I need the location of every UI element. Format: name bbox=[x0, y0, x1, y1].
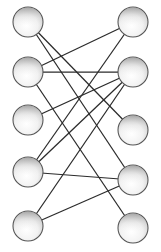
graph-node-R3[interactable] bbox=[118, 115, 148, 145]
graph-edge-L4-R4 bbox=[28, 172, 133, 180]
node-shading-L4 bbox=[14, 158, 43, 187]
node-shading-R3 bbox=[119, 116, 148, 145]
node-shading-L5 bbox=[14, 212, 43, 241]
node-shading-R1 bbox=[119, 8, 148, 37]
graph-edge-L1-R3 bbox=[28, 22, 133, 130]
node-shading-L1 bbox=[14, 8, 43, 37]
graph-node-L4[interactable] bbox=[13, 157, 43, 187]
node-shading-L3 bbox=[14, 106, 43, 135]
graph-node-L1[interactable] bbox=[13, 7, 43, 37]
node-shading-R5 bbox=[119, 214, 148, 243]
graph-edge-L2-R1 bbox=[28, 22, 133, 72]
node-shading-R4 bbox=[119, 166, 148, 195]
graph-node-R1[interactable] bbox=[118, 7, 148, 37]
graph-node-R4[interactable] bbox=[118, 165, 148, 195]
graph-node-L3[interactable] bbox=[13, 105, 43, 135]
bipartite-graph-diagram bbox=[0, 0, 161, 252]
graph-node-L2[interactable] bbox=[13, 57, 43, 87]
node-shading-L2 bbox=[14, 58, 43, 87]
nodes-layer bbox=[13, 7, 148, 243]
graph-node-R2[interactable] bbox=[118, 57, 148, 87]
graph-node-R5[interactable] bbox=[118, 213, 148, 243]
node-shading-R2 bbox=[119, 58, 148, 87]
graph-canvas bbox=[0, 0, 161, 252]
edges-layer bbox=[28, 22, 133, 228]
graph-node-L5[interactable] bbox=[13, 211, 43, 241]
